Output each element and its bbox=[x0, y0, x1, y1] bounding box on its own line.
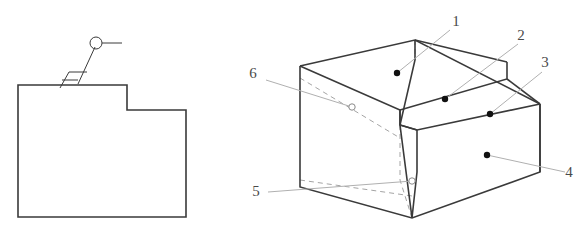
callout-1[interactable]: 1 bbox=[394, 13, 460, 76]
visible-edge-line bbox=[412, 130, 417, 218]
callout-6[interactable]: 6 bbox=[249, 65, 355, 110]
surface-finish-circle-icon bbox=[90, 37, 102, 49]
callout-1-leader-line bbox=[397, 30, 450, 73]
callout-5-number-label: 5 bbox=[252, 183, 260, 199]
visible-edge-line bbox=[300, 40, 540, 104]
isometric-visible-outline bbox=[300, 40, 540, 218]
visible-edge-line bbox=[415, 40, 507, 62]
callout-4-leader-line bbox=[487, 155, 565, 172]
callout-3-leader-line bbox=[490, 72, 542, 114]
surface-finish-leader-line bbox=[78, 47, 95, 84]
stepped-profile-outline bbox=[18, 85, 186, 217]
callout-6-number-label: 6 bbox=[249, 65, 257, 81]
visible-edge-line bbox=[400, 62, 507, 110]
callout-3-number-label: 3 bbox=[541, 54, 549, 70]
surface-finish-symbol bbox=[60, 37, 122, 88]
callout-1-number-label: 1 bbox=[452, 13, 460, 29]
callout-2-number-label: 2 bbox=[517, 27, 525, 43]
visible-edge-line bbox=[507, 79, 540, 104]
orthographic-front-view bbox=[18, 37, 186, 217]
callout-2-surface-marker bbox=[442, 96, 448, 102]
callout-1-surface-marker bbox=[394, 70, 400, 76]
callout-5-surface-marker bbox=[409, 178, 415, 184]
callout-4-surface-marker bbox=[484, 152, 490, 158]
callout-5-leader-line bbox=[268, 181, 412, 192]
callout-2[interactable]: 2 bbox=[442, 27, 525, 102]
drawing-page: 123456 bbox=[0, 0, 588, 229]
visible-edge-line bbox=[300, 66, 540, 218]
engineering-drawing-canvas: 123456 bbox=[0, 0, 588, 229]
visible-edge-line bbox=[400, 104, 540, 130]
callout-4-number-label: 4 bbox=[565, 164, 573, 180]
callout-3-surface-marker bbox=[487, 111, 493, 117]
callout-6-surface-marker bbox=[349, 104, 355, 110]
isometric-view bbox=[300, 40, 540, 218]
